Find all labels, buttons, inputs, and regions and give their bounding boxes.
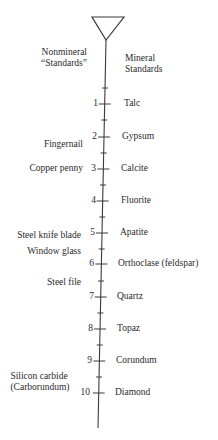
- scale-number: 8: [77, 323, 93, 334]
- scale-number: 1: [82, 98, 98, 109]
- mineral-label: Orthoclase (feldspar): [118, 258, 198, 269]
- scale-number: 4: [80, 195, 96, 206]
- indicator-triangle-icon: [92, 17, 124, 40]
- nonmineral-label: Fingernail: [20, 139, 83, 150]
- mineral-label: Corundum: [116, 355, 157, 366]
- scale-number: 5: [79, 227, 95, 238]
- scale-number: 6: [78, 258, 94, 269]
- scale-number: 7: [78, 291, 94, 302]
- mineral-header: Mineral Standards: [125, 53, 162, 75]
- mineral-label: Gypsum: [122, 131, 154, 142]
- nonmineral-header-line1: Nonmineral: [30, 47, 87, 58]
- mineral-label: Diamond: [115, 387, 150, 398]
- nonmineral-label: Silicon carbide: [0, 371, 78, 382]
- mineral-header-line2: Standards: [125, 64, 162, 75]
- mineral-label: Talc: [124, 98, 140, 109]
- scale-number: 9: [76, 355, 92, 366]
- mineral-label: Fluorite: [121, 195, 151, 206]
- mineral-label: Quartz: [117, 291, 143, 302]
- nonmineral-label: Steel file: [0, 277, 81, 288]
- nonmineral-label: Window glass: [0, 246, 81, 257]
- nonmineral-label: Copper penny: [10, 163, 83, 174]
- mineral-header-line1: Mineral: [125, 53, 162, 64]
- nonmineral-header: Nonmineral “Standards”: [30, 47, 87, 69]
- mohs-hardness-scale-diagram: Nonmineral “Standards” Mineral Standards…: [0, 0, 218, 440]
- nonmineral-label: (Carborundum): [0, 382, 80, 393]
- mineral-label: Apatite: [120, 227, 148, 238]
- axis-line: [98, 40, 106, 428]
- scale-number: 2: [81, 131, 97, 142]
- mineral-label: Calcite: [121, 163, 148, 174]
- nonmineral-header-line2: “Standards”: [30, 58, 87, 69]
- mineral-label: Topaz: [117, 323, 140, 334]
- nonmineral-label: Steel knife blade: [0, 230, 81, 241]
